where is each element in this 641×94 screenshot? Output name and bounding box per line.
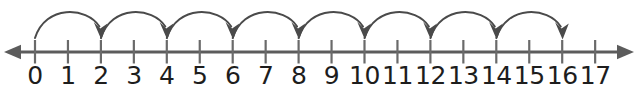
tick-label: 14 bbox=[481, 62, 512, 90]
tick-label: 3 bbox=[126, 62, 141, 90]
jump-arcs-group bbox=[35, 12, 569, 39]
axis-right-arrowhead-icon bbox=[617, 45, 634, 59]
jump-arc bbox=[365, 12, 429, 38]
jump-arc bbox=[496, 12, 560, 38]
axis-left-arrowhead-icon bbox=[4, 45, 21, 59]
jump-arc bbox=[35, 12, 99, 38]
jump-arrowhead-icon bbox=[555, 22, 569, 40]
jump-arc bbox=[101, 12, 165, 38]
tick-label: 16 bbox=[547, 62, 578, 90]
jump-arc bbox=[299, 12, 363, 38]
jump-arc bbox=[430, 12, 494, 38]
tick-label: 13 bbox=[448, 62, 479, 90]
axis-group bbox=[4, 45, 634, 59]
number-line-figure: 01234567891011121314151617 bbox=[0, 0, 641, 94]
tick-label: 10 bbox=[349, 62, 380, 90]
tick-label: 5 bbox=[192, 62, 207, 90]
tick-label: 17 bbox=[580, 62, 611, 90]
tick-label: 2 bbox=[93, 62, 108, 90]
tick-label: 12 bbox=[415, 62, 446, 90]
tick-label: 6 bbox=[225, 62, 240, 90]
tick-label: 4 bbox=[159, 62, 174, 90]
tick-label: 0 bbox=[27, 62, 42, 90]
tick-label: 7 bbox=[258, 62, 273, 90]
tick-label: 11 bbox=[382, 62, 413, 90]
tick-label: 1 bbox=[60, 62, 75, 90]
jump-arc bbox=[233, 12, 297, 38]
tick-label: 9 bbox=[324, 62, 339, 90]
jump-arc bbox=[167, 12, 231, 38]
tick-label: 15 bbox=[514, 62, 545, 90]
tick-label: 8 bbox=[291, 62, 306, 90]
